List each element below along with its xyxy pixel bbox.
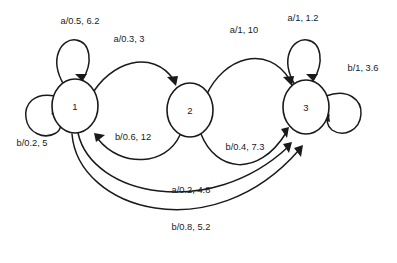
edge-1-to-2 [91, 62, 178, 96]
state-label: 2 [187, 105, 192, 116]
edge-label-1-to-3-b: b/0.8, 5.2 [172, 222, 211, 232]
edge-self-loop-1-a [57, 40, 89, 85]
edge-label-1-to-2: a/0.3, 3 [113, 34, 144, 44]
arrow-head [167, 76, 178, 86]
edge-label-2-to-3-a: a/1, 10 [230, 25, 258, 35]
edge-label-self-loop-3-a: a/1, 1.2 [287, 13, 318, 23]
edge-label-2-to-1: b/0.6, 12 [115, 132, 151, 142]
state-label: 3 [303, 102, 308, 113]
edge-label-self-loop-1-b: b/0.2, 5 [16, 138, 47, 148]
edge-label-2-to-3-b: b/0.4, 7.3 [226, 142, 265, 152]
edge-path [91, 62, 174, 96]
state-node-1[interactable]: 1 [52, 79, 98, 133]
edge-path [57, 40, 89, 85]
state-machine-diagram: 1 2 3 a/0.5, 6.2 b/0.2, 5 a/0.3, 3 b/0.6… [0, 0, 397, 263]
edge-label-self-loop-1-a: a/0.5, 6.2 [61, 16, 100, 26]
state-node-3[interactable]: 3 [283, 80, 329, 134]
state-node-2[interactable]: 2 [167, 83, 213, 137]
edge-label-1-to-3-a: a/0.2, 4.8 [172, 185, 211, 195]
edge-label-self-loop-3-b: b/1, 3.6 [347, 63, 378, 73]
arrow-head [281, 127, 289, 138]
state-label: 1 [72, 101, 77, 112]
arrow-head [283, 142, 292, 153]
arrow-head [294, 145, 303, 157]
edge-path [206, 59, 290, 96]
edge-path [326, 93, 361, 133]
diagram-canvas: 1 2 3 a/0.5, 6.2 b/0.2, 5 a/0.3, 3 b/0.6… [0, 0, 397, 263]
edge-2-to-3-a [206, 59, 294, 96]
